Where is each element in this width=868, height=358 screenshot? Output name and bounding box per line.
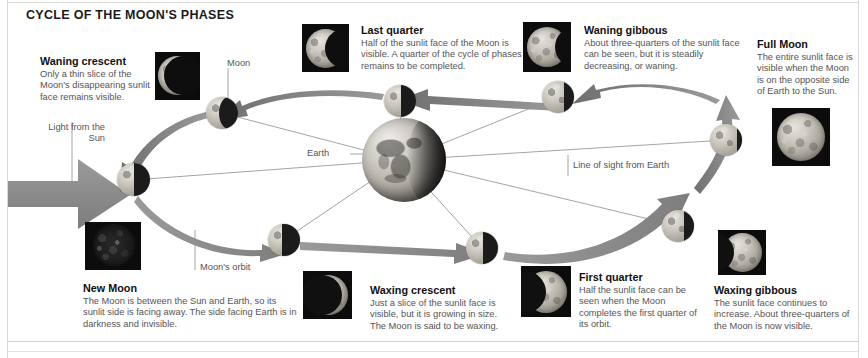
orbit-moon-shadow: [219, 97, 238, 129]
orbit-moon-new: [117, 163, 150, 196]
caption-heading: First quarter: [579, 271, 703, 284]
caption-body: Only a thin slice of the Moon's disappea…: [40, 69, 152, 103]
caption-heading: Full Moon: [757, 38, 857, 51]
caption-waxing-crescent: Waxing crescent Just a slice of the sunl…: [370, 284, 512, 332]
caption-body: Half the sunlit face can be seen when th…: [579, 285, 703, 331]
orbit-moon-shadow: [684, 210, 694, 242]
panel-bottom-rule-secondary: [8, 351, 858, 352]
orbit-moon-waxing-crescent: [268, 224, 300, 256]
photo-waxing-gibbous: [718, 230, 766, 275]
caption-first-quarter: First quarter Half the sunlit face can b…: [579, 271, 703, 331]
caption-new-moon: New Moon The Moon is between the Sun and…: [83, 282, 298, 330]
photo-new-moon: [85, 222, 141, 270]
caption-heading: Waxing crescent: [370, 284, 512, 297]
caption-heading: New Moon: [83, 282, 298, 295]
orbit-moon-waning-crescent: [206, 97, 238, 129]
orbit-moon-waning-gibbous: [542, 81, 574, 113]
photo-full-moon: [772, 108, 830, 166]
caption-heading: Waxing gibbous: [714, 284, 862, 297]
orbit-arrow-upper-left: [218, 90, 384, 120]
orbit-moon-full: [710, 124, 742, 156]
orbit-moon-shadow: [282, 224, 300, 256]
caption-waning-gibbous: Waning gibbous About three-quarters of t…: [584, 24, 750, 72]
label-earth: Earth: [307, 148, 329, 159]
orbit-moon-last-quarter: [384, 85, 416, 117]
caption-waxing-gibbous: Waxing gibbous The sunlit face continues…: [714, 284, 862, 332]
orbit-moon-shadow: [134, 163, 151, 196]
page-title: CYCLE OF THE MOON'S PHASES: [26, 8, 234, 22]
orbit-arrow-upper-right: [572, 84, 720, 104]
orbit-moon-waxing-gibbous: [662, 210, 694, 242]
photo-waning-crescent: [155, 52, 200, 100]
caption-body: The Moon is between the Sun and Earth, s…: [83, 296, 298, 330]
orbit-moon-first-quarter: [466, 232, 498, 264]
caption-heading: Waning crescent: [40, 55, 152, 68]
label-moons-orbit: Moon's orbit: [200, 262, 250, 273]
earth-globe: [362, 118, 446, 202]
label-moon: Moon: [227, 58, 250, 69]
caption-body: The sunlit face continues to increase. A…: [714, 298, 862, 332]
panel-top-rule: [8, 2, 858, 3]
caption-body: About three-quarters of the sunlit face …: [584, 38, 750, 72]
orbit-moon-shadow: [564, 81, 574, 113]
photo-first-quarter: [521, 266, 571, 317]
orbit-arrow-lower-left: [134, 196, 286, 262]
panel-bottom-rule: [8, 341, 858, 342]
moon-phases-diagram: CYCLE OF THE MOON'S PHASES: [0, 0, 868, 358]
orbit-arrow-bottom-center: [300, 242, 486, 264]
photo-last-quarter: [302, 24, 349, 72]
label-light-from-sun-line2: Sun: [0, 133, 105, 144]
orbit-moon-shadow: [483, 232, 498, 264]
earth-terminator-shadow: [407, 118, 446, 202]
label-light-from-sun-line1: Light from the: [0, 122, 105, 133]
label-line-of-sight: Line of sight from Earth: [573, 160, 669, 171]
photo-waxing-crescent: [303, 271, 352, 319]
caption-body: Just a slice of the sunlit face is visib…: [370, 298, 512, 332]
caption-heading: Last quarter: [361, 24, 531, 37]
caption-waning-crescent: Waning crescent Only a thin slice of the…: [40, 55, 152, 103]
caption-last-quarter: Last quarter Half of the sunlit face of …: [361, 24, 531, 72]
orbit-arrow-top-center: [398, 89, 560, 111]
caption-full-moon: Full Moon The entire sunlit face is visi…: [757, 38, 857, 98]
orbit-moon-shadow: [401, 85, 416, 117]
caption-body: The entire sunlit face is visible when t…: [757, 52, 857, 98]
orbit-moon-shadow: [737, 124, 742, 156]
caption-heading: Waning gibbous: [584, 24, 750, 37]
caption-body: Half of the sunlit face of the Moon is v…: [361, 38, 531, 72]
